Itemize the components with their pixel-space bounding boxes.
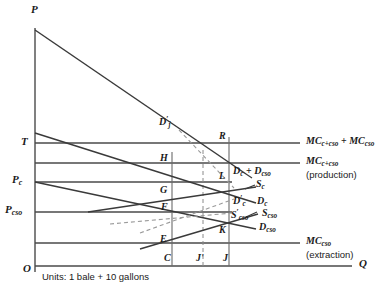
- price-tick-Pcso: Pcso: [5, 204, 22, 215]
- curve-label-dc-plus-dcso: Dc + Dcso: [233, 166, 271, 176]
- curve-label-mc-sum: MCc+cso + MCcso: [306, 136, 374, 146]
- price-tick-Pcso-sub: cso: [12, 208, 23, 217]
- point-label-G: G: [160, 185, 167, 195]
- quantity-tick-J: J: [223, 253, 228, 263]
- point-label-H: H: [160, 153, 168, 163]
- curve-label-dc-prime: D′c: [233, 196, 246, 206]
- curve-label-mc-production-note: (production): [306, 169, 357, 180]
- point-label-E: E: [160, 234, 167, 244]
- curve-label-dcso: Dcso: [259, 222, 276, 232]
- curve-dc-plus-dcso: [35, 30, 246, 174]
- point-label-K: K: [219, 225, 226, 235]
- curve-dcso: [35, 182, 256, 229]
- quantity-tick-C: C: [164, 253, 171, 263]
- curve-scso-prime: [110, 213, 232, 224]
- axes-group: [35, 28, 352, 272]
- point-label-L: L: [219, 171, 225, 181]
- units-caption: Units: 1 bale + 10 gallons: [42, 271, 149, 282]
- curve-label-mc-extraction: MCcso: [306, 236, 331, 246]
- x-axis-label: Q: [359, 258, 367, 269]
- point-label-F: F: [161, 202, 168, 212]
- curve-label-dc: Dc: [257, 196, 267, 206]
- curve-label-sc: Sc: [256, 179, 265, 189]
- y-axis-label: P: [31, 4, 38, 15]
- price-tick-Pc-base: P: [12, 173, 19, 185]
- price-tick-T: T: [21, 136, 28, 147]
- curve-label-dj-prime: D′j: [159, 117, 170, 127]
- point-label-R: R: [219, 131, 226, 141]
- curve-label-mc-production: MCc+cso: [306, 156, 338, 166]
- quantity-tick-J-prime: J': [196, 253, 204, 263]
- economics-diagram: P Q O T Pc Pcso C J' J R H L G F K E D′j…: [0, 0, 380, 297]
- curve-label-scso: Scso: [262, 208, 277, 218]
- price-tick-Pc-sub: c: [19, 178, 23, 187]
- origin-label: O: [23, 263, 31, 274]
- price-tick-Pcso-base: P: [5, 203, 12, 215]
- curve-label-scso-prime: S′cso: [231, 210, 248, 220]
- price-tick-Pc: Pc: [12, 174, 22, 185]
- curve-label-mc-extraction-note: (extraction): [306, 249, 354, 260]
